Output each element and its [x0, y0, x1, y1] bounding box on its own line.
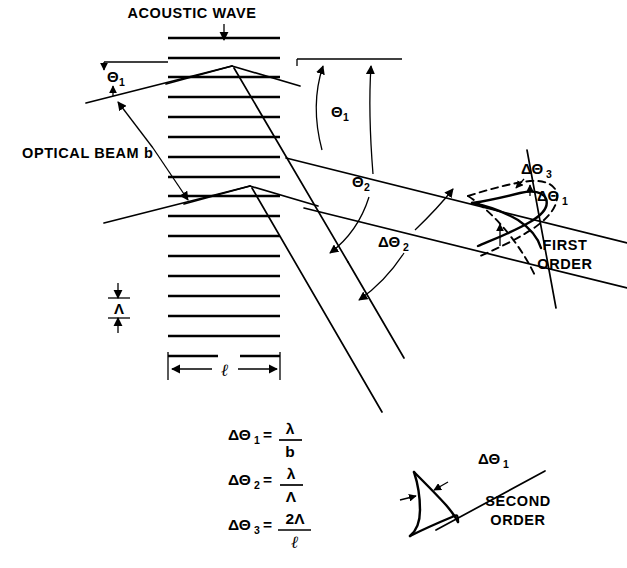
svg-text:ΔΘ: ΔΘ [521, 160, 543, 177]
equation-delta-theta-2: ΔΘ 2 = λ Λ [228, 465, 303, 505]
eq2-numerator: λ [287, 465, 296, 482]
svg-text:ΔΘ: ΔΘ [228, 426, 251, 443]
delta-theta3-label: ΔΘ 3 [521, 160, 552, 180]
svg-text:1: 1 [254, 434, 260, 446]
interaction-length-label: ℓ [221, 361, 228, 380]
svg-text:ΔΘ: ΔΘ [537, 187, 559, 204]
acoustic-grating-lines [168, 38, 280, 356]
first-order-label-line2: ORDER [537, 256, 592, 272]
svg-text:ΔΘ: ΔΘ [478, 450, 500, 467]
svg-text:Θ: Θ [331, 103, 343, 120]
svg-text:1: 1 [343, 111, 349, 123]
svg-text:1: 1 [503, 458, 509, 470]
theta1-right-arc [316, 66, 323, 150]
equation-delta-theta-1: ΔΘ 1 = λ b [228, 420, 302, 460]
second-order-label-line2: ORDER [490, 512, 545, 528]
svg-text:3: 3 [546, 168, 552, 180]
svg-text:Θ: Θ [107, 68, 119, 85]
svg-text:=: = [263, 471, 272, 488]
eq3-denominator: ℓ [291, 533, 298, 552]
delta-theta1-second-label: ΔΘ 1 [478, 450, 509, 470]
delta-theta1-first-label: ΔΘ 1 [537, 187, 568, 207]
svg-text:1: 1 [562, 195, 568, 207]
first-order-label-line1: FIRST [543, 237, 588, 253]
theta1-right-label: Θ 1 [331, 103, 349, 123]
theta2-label: Θ 2 [352, 173, 370, 193]
angle-reference-horizontal [297, 59, 402, 66]
acoustic-wave-label: ACOUSTIC WAVE [127, 5, 256, 21]
grating-period-label: Λ [114, 300, 124, 317]
eq1-numerator: λ [286, 420, 295, 437]
delta-theta2-label: ΔΘ 2 [378, 233, 409, 253]
svg-text:ΔΘ: ΔΘ [228, 516, 251, 533]
svg-text:ΔΘ: ΔΘ [228, 471, 251, 488]
figure-canvas: ACOUSTIC WAVE OPTICAL BEAM b Θ 1 Θ 1 Θ 2… [0, 0, 627, 568]
svg-text:2: 2 [254, 479, 260, 491]
svg-text:ΔΘ: ΔΘ [378, 233, 400, 250]
svg-text:3: 3 [254, 524, 260, 536]
eq1-denominator: b [285, 443, 294, 460]
svg-text:=: = [263, 516, 272, 533]
svg-text:2: 2 [364, 181, 370, 193]
eq2-denominator: Λ [286, 488, 297, 505]
optical-beam-label: OPTICAL BEAM b [22, 145, 153, 161]
equation-delta-theta-3: ΔΘ 3 = 2Λ ℓ [228, 510, 311, 552]
first-order-group [468, 150, 557, 308]
theta2-arc [330, 66, 373, 253]
acousto-optic-diffraction-figure: ACOUSTIC WAVE OPTICAL BEAM b Θ 1 Θ 1 Θ 2… [0, 0, 627, 568]
second-order-label-line1: SECOND [485, 493, 551, 509]
eq3-numerator: 2Λ [286, 510, 306, 527]
svg-text:Θ: Θ [352, 173, 364, 190]
svg-text:=: = [263, 426, 272, 443]
svg-text:2: 2 [403, 241, 409, 253]
theta1-left-label: Θ 1 [107, 68, 125, 88]
svg-text:1: 1 [119, 76, 125, 88]
